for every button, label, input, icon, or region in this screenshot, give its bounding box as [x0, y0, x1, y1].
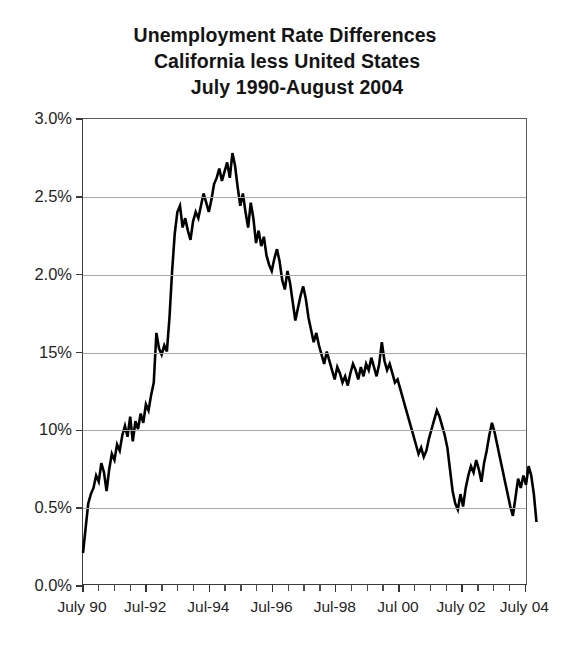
x-axis-minor-tick — [446, 584, 447, 591]
y-axis-tick-label: 2.5% — [0, 188, 72, 204]
x-axis-minor-tick — [367, 584, 368, 591]
y-axis-tick — [76, 352, 83, 354]
y-axis-tick-label: 0.0% — [0, 577, 72, 593]
y-axis-tick-label: 10% — [0, 421, 72, 437]
x-axis-major-tick — [398, 584, 399, 592]
x-axis-major-tick — [82, 584, 83, 592]
chart-title-line-1: Unemployment Rate Differences — [0, 22, 570, 48]
x-axis-tick-label: Jul-92 — [124, 598, 166, 616]
x-axis-minor-tick — [509, 584, 510, 591]
x-axis-minor-tick — [98, 584, 99, 591]
y-axis-tick — [76, 507, 83, 509]
chart-title-block: Unemployment Rate Differences California… — [0, 22, 570, 100]
x-axis-minor-tick — [161, 584, 162, 591]
x-axis-major-tick — [145, 584, 146, 592]
x-axis-major-tick — [209, 584, 210, 592]
x-axis-minor-tick — [224, 584, 225, 591]
x-axis-minor-tick — [288, 584, 289, 591]
x-axis-tick-label: Jul 00 — [377, 598, 418, 616]
x-axis-minor-tick — [430, 584, 431, 591]
plot-area — [82, 118, 527, 585]
x-axis-minor-tick — [319, 584, 320, 591]
series-plot — [83, 119, 526, 584]
x-axis-tick-label: July 04 — [500, 598, 549, 616]
gridline — [83, 430, 526, 431]
y-axis-tick — [76, 274, 83, 276]
x-axis-minor-tick — [256, 584, 257, 591]
x-axis-minor-tick — [382, 584, 383, 591]
y-axis-tick-label: 2.0% — [0, 266, 72, 282]
x-axis-minor-tick — [130, 584, 131, 591]
x-axis-minor-tick — [351, 584, 352, 591]
x-axis-tick-label: Jul-94 — [187, 598, 229, 616]
chart-title-line-2: California less United States — [2, 48, 570, 74]
gridline — [83, 197, 526, 198]
x-axis-minor-tick — [177, 584, 178, 591]
y-axis-tick — [76, 196, 83, 198]
y-axis-tick — [76, 118, 83, 120]
x-axis-minor-tick — [303, 584, 304, 591]
x-axis-tick-label: July 90 — [57, 598, 106, 616]
x-axis-minor-tick — [193, 584, 194, 591]
x-axis-major-tick — [335, 584, 336, 592]
x-axis-major-tick — [525, 584, 526, 592]
y-axis-tick-label: 15% — [0, 344, 72, 360]
x-axis-tick-label: Jul-96 — [250, 598, 292, 616]
chart-figure: Unemployment Rate Differences California… — [0, 0, 570, 651]
x-axis-minor-tick — [240, 584, 241, 591]
y-axis-tick-label: 3.0% — [0, 110, 72, 126]
x-axis-labels: July 90Jul-92Jul-94Jul-96Jul-98Jul 00Jul… — [0, 598, 570, 628]
chart-title-line-3: July 1990-August 2004 — [12, 74, 570, 100]
x-axis-minor-tick — [414, 584, 415, 591]
y-axis-tick-label: 0.5% — [0, 499, 72, 515]
x-axis-tick-label: July 02 — [437, 598, 486, 616]
gridline — [83, 508, 526, 509]
x-axis-minor-tick — [477, 584, 478, 591]
y-axis-tick — [76, 430, 83, 432]
x-axis-minor-tick — [493, 584, 494, 591]
x-axis-major-tick — [461, 584, 462, 592]
gridline — [83, 353, 526, 354]
x-axis-tick-label: Jul-98 — [314, 598, 356, 616]
x-axis-minor-tick — [114, 584, 115, 591]
x-axis-major-tick — [272, 584, 273, 592]
gridline — [83, 275, 526, 276]
